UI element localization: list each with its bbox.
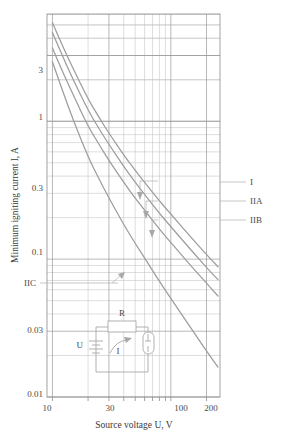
- curve-label-I: I: [250, 177, 253, 187]
- y-tick-3: 3: [39, 65, 44, 75]
- curve-label-IIC: IIC: [24, 278, 36, 288]
- x-tick-10: 10: [43, 403, 53, 413]
- resistor-label: R: [119, 308, 125, 318]
- label-group-I: I: [220, 177, 253, 187]
- chart-figure: 3 1 0.3 0.1 0.03 0.01 10 30 100 200 Sour…: [0, 0, 283, 439]
- y-tick-0-03: 0.03: [27, 325, 43, 335]
- x-axis-title: Source voltage U, V: [95, 420, 173, 430]
- y-tick-0-1: 0.1: [32, 247, 43, 257]
- y-tick-0-01: 0.01: [27, 389, 43, 399]
- curve-label-IIB: IIB: [250, 215, 262, 225]
- spark-gap-symbol: [143, 332, 154, 354]
- resistor-symbol: [108, 321, 136, 332]
- source-label: U: [77, 340, 84, 350]
- current-arrow: [110, 337, 132, 353]
- label-group-IIB: IIB: [220, 215, 262, 225]
- label-group-IIA: IIA: [220, 196, 263, 206]
- minimum-igniting-current-chart: 3 1 0.3 0.1 0.03 0.01 10 30 100 200 Sour…: [0, 0, 283, 439]
- current-label: I: [117, 346, 120, 356]
- y-tick-1: 1: [39, 112, 44, 122]
- x-tick-30: 30: [106, 403, 116, 413]
- x-tick-200: 200: [204, 403, 218, 413]
- minor-gridlines: [47, 14, 220, 397]
- major-gridlines: [47, 14, 220, 401]
- label-group-IIC: IIC: [24, 278, 118, 288]
- x-tick-100: 100: [174, 403, 188, 413]
- y-tick-0-3: 0.3: [32, 183, 44, 193]
- plot-frame: [47, 14, 220, 397]
- curve-label-IIA: IIA: [250, 196, 263, 206]
- y-axis-title: Minimum igniting current I, A: [10, 147, 20, 263]
